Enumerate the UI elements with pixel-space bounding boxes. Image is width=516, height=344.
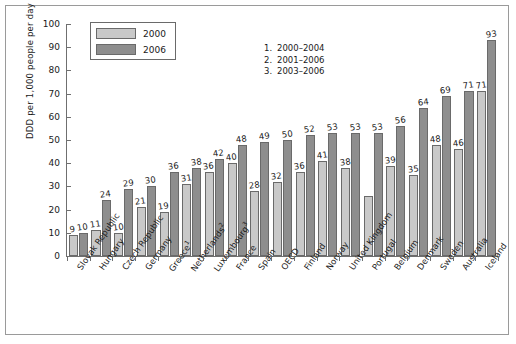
bar-value-label: 36 (167, 161, 179, 172)
bar-value-label: 40 (225, 152, 237, 163)
footnote-list: 1.2000–20042.2001–20063.2003–2006 (264, 43, 325, 78)
footnote-number: 2. (264, 55, 277, 67)
bar-2006[interactable] (351, 133, 360, 256)
bar-value-label: 36 (293, 161, 305, 172)
footnote-text: 2001–2006 (277, 55, 325, 65)
bar-value-label: 32 (271, 170, 283, 181)
bar-2006[interactable] (396, 126, 405, 256)
bar-value-label: 48 (235, 133, 247, 144)
y-tick-label: 0 (54, 251, 60, 261)
bar-group: 3853 (339, 24, 362, 256)
x-tick-mark (271, 256, 272, 261)
x-tick-mark (90, 256, 91, 261)
footnote-item: 2.2001–2006 (264, 55, 325, 67)
bar-group: 910 (67, 24, 90, 256)
y-tick-label: 20 (49, 205, 60, 215)
bar-value-label: 38 (339, 156, 351, 167)
bar-value-label: 39 (384, 154, 396, 165)
bar-value-label: 42 (213, 147, 225, 158)
footnote-item: 3.2003–2006 (264, 66, 325, 78)
x-tick-mark (180, 256, 181, 261)
bar-value-label: 19 (157, 200, 169, 211)
bar-value-label: 48 (429, 133, 441, 144)
x-tick-mark (248, 256, 249, 261)
bar-value-label: 41 (316, 149, 328, 160)
bar-2006[interactable] (192, 168, 201, 256)
y-tick-label: 100 (43, 19, 60, 29)
bar-2000[interactable] (69, 235, 78, 256)
bar-value-label: 71 (462, 80, 474, 91)
legend-swatch-2006 (96, 44, 136, 55)
bar-group: 4671 (453, 24, 476, 256)
bar-value-label: 52 (303, 124, 315, 135)
bar-value-label: 30 (145, 175, 157, 186)
bar-2006[interactable] (260, 142, 269, 256)
x-tick-mark (294, 256, 295, 261)
bar-2006[interactable] (442, 96, 451, 256)
bar-value-label: 50 (281, 128, 293, 139)
figure-frame: DDD per 1,000 people per day 01020304050… (5, 5, 509, 335)
x-tick-mark (498, 256, 499, 261)
bar-value-label: 38 (190, 156, 202, 167)
y-tick-label: 80 (49, 65, 60, 75)
x-tick-mark (453, 256, 454, 261)
bar-group: 3642 (203, 24, 226, 256)
bar-value-label: 24 (99, 189, 111, 200)
footnote-number: 3. (264, 66, 277, 78)
y-tick-label: 60 (49, 112, 60, 122)
legend-swatch-2000 (96, 28, 136, 39)
y-tick-label: 70 (49, 89, 60, 99)
footnote-number: 1. (264, 43, 277, 55)
bar-value-label: 21 (135, 196, 147, 207)
y-tick-label: 10 (49, 228, 60, 238)
y-tick-label: 30 (49, 181, 60, 191)
bar-2006[interactable] (328, 133, 337, 256)
bar-2006[interactable] (124, 189, 133, 256)
legend-item-2000: 2000 (96, 27, 170, 40)
x-tick-mark (407, 256, 408, 261)
bar-value-label: 53 (349, 121, 361, 132)
y-tick-label: 40 (49, 158, 60, 168)
bar-2006[interactable] (487, 40, 496, 256)
legend-label-2000: 2000 (143, 29, 166, 39)
x-tick-mark (362, 256, 363, 261)
bar-value-label: 28 (248, 179, 260, 190)
bar-value-label: 69 (440, 84, 452, 95)
x-tick-mark (475, 256, 476, 261)
x-tick-mark (385, 256, 386, 261)
x-tick-mark (158, 256, 159, 261)
bar-value-label: 29 (122, 177, 134, 188)
bar-value-label: 35 (407, 163, 419, 174)
bar-value-label: 53 (326, 121, 338, 132)
bar-value-label: 56 (394, 114, 406, 125)
bar-2000[interactable] (273, 182, 282, 256)
y-tick-label: 50 (49, 135, 60, 145)
bar-2000[interactable] (296, 172, 305, 256)
bar-value-label: 36 (203, 161, 215, 172)
bar-value-label: 10 (77, 221, 89, 232)
bar-value-label: 71 (475, 80, 487, 91)
footnote-text: 2003–2006 (277, 66, 325, 76)
bar-2006[interactable] (419, 108, 428, 256)
x-tick-mark (339, 256, 340, 261)
bar-value-label: 11 (89, 219, 101, 230)
chart-legend: 2000 2006 (90, 22, 176, 60)
y-axis-ticks: 0102030405060708090100 (26, 24, 66, 256)
bar-group: 3564 (407, 24, 430, 256)
legend-item-2006: 2006 (96, 43, 170, 56)
bar-group: 7193 (475, 24, 498, 256)
x-tick-mark (430, 256, 431, 261)
bar-2006[interactable] (306, 135, 315, 256)
x-tick-mark (112, 256, 113, 261)
bar-group: 4869 (430, 24, 453, 256)
x-tick-mark (226, 256, 227, 261)
bar-value-label: 46 (452, 138, 464, 149)
legend-label-2006: 2006 (143, 45, 166, 55)
bar-group: 3138 (180, 24, 203, 256)
bar-2006[interactable] (283, 140, 292, 256)
bar-2006[interactable] (464, 91, 473, 256)
x-tick-mark (67, 256, 68, 261)
x-tick-mark (317, 256, 318, 261)
bar-2000[interactable] (477, 91, 486, 256)
bar-value-label: 9 (69, 224, 76, 235)
